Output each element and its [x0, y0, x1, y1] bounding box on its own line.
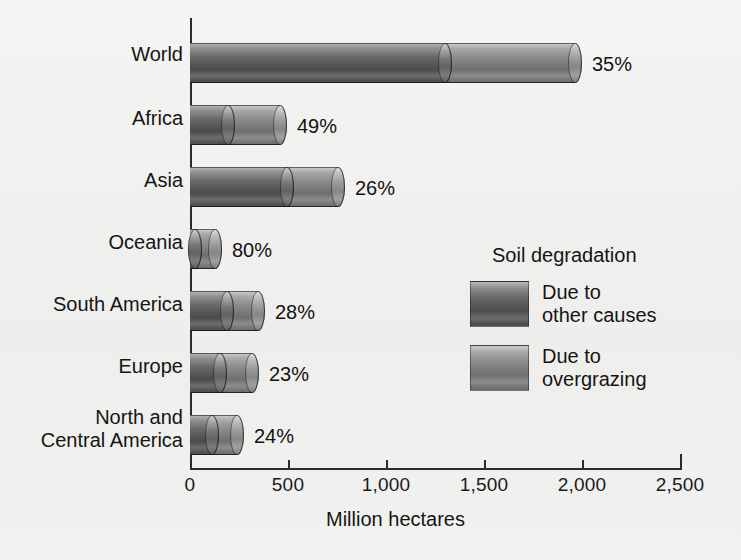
category-label-oceania: Oceania [109, 231, 184, 254]
bar-north-and-central-america [190, 415, 237, 455]
bar-label-europe: 23% [269, 363, 309, 386]
bar-south-america [190, 291, 258, 331]
bar-south-america-segment-other-causes [190, 291, 227, 331]
bar-label-south-america: 28% [275, 301, 315, 324]
x-tick-2500 [680, 454, 682, 470]
bar-asia [190, 167, 338, 207]
bar-europe [190, 353, 252, 393]
legend-title: Soil degradation [492, 244, 710, 267]
legend-swatch-overgrazing [470, 345, 529, 391]
bar-world-segment-other-causes [190, 43, 445, 83]
bar-label-world: 35% [592, 53, 632, 76]
bar-world [190, 43, 575, 83]
x-tick-label-500: 500 [272, 474, 304, 496]
x-tick-1000 [386, 460, 388, 470]
bar-europe-segment-other-causes [190, 353, 220, 393]
x-tick-0 [190, 454, 192, 470]
category-label-world: World [131, 43, 183, 66]
legend: Soil degradation Due to other causes Due… [470, 244, 710, 409]
x-axis-line [190, 468, 681, 470]
bar-north-and-central-america-segment-other-causes [190, 415, 212, 455]
bar-africa-segment-other-causes [190, 105, 228, 145]
bar-label-oceania: 80% [232, 239, 272, 262]
x-tick-label-1000: 1,000 [362, 474, 411, 496]
category-label-asia: Asia [144, 169, 183, 192]
x-tick-label-0: 0 [185, 474, 196, 496]
bar-oceania-segment-other-causes [190, 229, 195, 269]
category-label-europe: Europe [119, 355, 184, 378]
x-tick-500 [288, 460, 290, 470]
x-tick-1500 [484, 460, 486, 470]
legend-swatch-other-causes [470, 281, 529, 327]
x-tick-2000 [582, 460, 584, 470]
x-tick-label-2500: 2,500 [656, 474, 705, 496]
legend-item-overgrazing: Due to overgrazing [470, 345, 710, 391]
chart-page: World Africa Asia Oceania South America … [0, 0, 741, 560]
category-label-south-america: South America [53, 293, 183, 316]
legend-label-other-causes: Due to other causes [542, 281, 657, 327]
legend-label-overgrazing: Due to overgrazing [542, 345, 647, 391]
bar-label-africa: 49% [297, 115, 337, 138]
x-tick-label-1500: 1,500 [460, 474, 509, 496]
bar-label-north-and-central-america: 24% [254, 425, 294, 448]
legend-item-other-causes: Due to other causes [470, 281, 710, 327]
x-axis-title: Million hectares [0, 508, 741, 531]
bar-asia-segment-other-causes [190, 167, 287, 207]
x-tick-label-2000: 2,000 [558, 474, 607, 496]
bar-label-asia: 26% [355, 177, 395, 200]
bar-africa [190, 105, 280, 145]
category-label-north-and-central-america: North and Central America [41, 406, 183, 452]
category-label-africa: Africa [132, 107, 183, 130]
bar-oceania [190, 229, 215, 269]
